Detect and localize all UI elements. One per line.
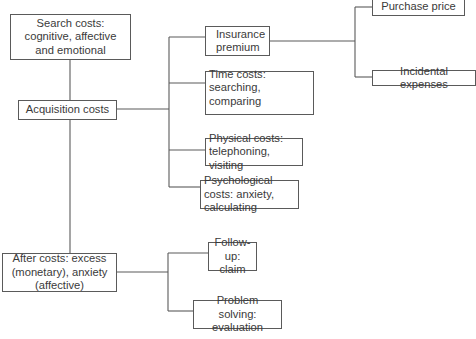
node-purchase-price: Purchase price bbox=[372, 0, 465, 16]
node-after-costs: After costs: excess (monetary), anxiety … bbox=[2, 253, 117, 292]
node-psychological-costs: Psychological costs: anxiety, calculatin… bbox=[200, 180, 299, 209]
node-label: After costs: excess (monetary), anxiety … bbox=[6, 252, 113, 293]
node-problem-solving: Problem solving: evaluation bbox=[193, 300, 282, 329]
node-label: Insurance premium bbox=[216, 28, 266, 55]
node-label: Incidental expenses bbox=[376, 65, 472, 92]
node-label: Acquisition costs bbox=[26, 103, 109, 117]
node-label: Follow-up: claim bbox=[212, 236, 253, 277]
node-follow-up: Follow-up: claim bbox=[208, 242, 257, 271]
node-physical-costs: Physical costs: telephoning, visiting bbox=[205, 138, 303, 166]
node-label: Purchase price bbox=[381, 0, 456, 14]
node-label: Time costs: searching, comparing bbox=[209, 68, 310, 109]
node-insurance-premium: Insurance premium bbox=[205, 26, 270, 56]
node-label: Physical costs: telephoning, visiting bbox=[209, 132, 299, 173]
node-time-costs: Time costs: searching, comparing bbox=[205, 71, 314, 115]
node-label: Problem solving: evaluation bbox=[197, 294, 278, 335]
node-acquisition-costs: Acquisition costs bbox=[18, 100, 117, 120]
node-search-costs: Search costs: cognitive, affective and e… bbox=[10, 14, 131, 60]
node-label: Search costs: cognitive, affective and e… bbox=[14, 17, 127, 58]
node-label: Psychological costs: anxiety, calculatin… bbox=[204, 174, 295, 215]
node-incidental-expenses: Incidental expenses bbox=[372, 70, 476, 86]
